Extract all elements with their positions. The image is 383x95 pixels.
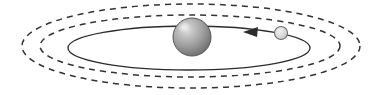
orbit-diagram-svg bbox=[0, 0, 383, 95]
central-sphere bbox=[173, 18, 211, 56]
satellite-sphere bbox=[275, 27, 288, 40]
orbital-diagram bbox=[0, 0, 383, 95]
